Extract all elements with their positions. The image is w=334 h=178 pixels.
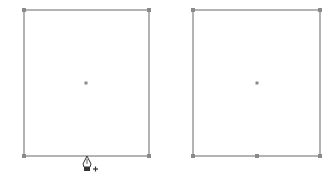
- anchor-point[interactable]: [22, 8, 26, 12]
- left-rectangle[interactable]: [22, 8, 151, 158]
- center-point: [256, 82, 259, 85]
- anchor-point-added[interactable]: [255, 154, 259, 158]
- anchor-point[interactable]: [147, 154, 151, 158]
- center-point: [85, 82, 88, 85]
- anchor-point[interactable]: [22, 154, 26, 158]
- pen-add-anchor-icon: [83, 156, 98, 172]
- anchor-point[interactable]: [318, 154, 322, 158]
- anchor-point[interactable]: [191, 154, 195, 158]
- anchor-point[interactable]: [318, 8, 322, 12]
- anchor-point[interactable]: [191, 8, 195, 12]
- right-rectangle[interactable]: [191, 8, 322, 158]
- anchor-point[interactable]: [147, 8, 151, 12]
- canvas[interactable]: [0, 0, 334, 178]
